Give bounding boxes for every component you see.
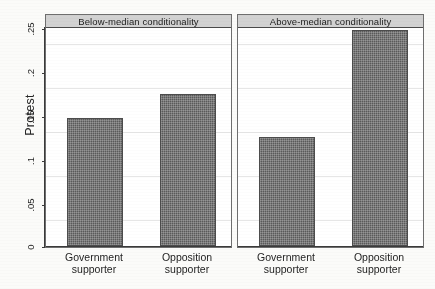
y-tick-2: .1	[20, 156, 38, 166]
y-tick-label-0: 0	[24, 240, 38, 254]
y-tick-3: .15	[20, 112, 38, 122]
gridline-0.25	[46, 44, 231, 45]
y-tick-label-3: .15	[24, 110, 38, 124]
panel-below-median: Below-median conditionality	[45, 14, 232, 248]
bar-below-median-government	[67, 118, 123, 246]
x-label-line2: supporter	[331, 263, 427, 275]
y-tick-label-4: .2	[24, 66, 38, 80]
x-label-above-median-opposition: Opposition supporter	[331, 251, 427, 275]
y-tick-1: .05	[20, 200, 38, 210]
bar-below-median-opposition	[160, 94, 216, 246]
panel-title-below-median: Below-median conditionality	[46, 15, 231, 28]
x-label-line2: supporter	[139, 263, 235, 275]
x-label-line2: supporter	[46, 263, 142, 275]
x-label-line2: supporter	[238, 263, 334, 275]
gridline-0.20	[46, 88, 231, 89]
x-axis-line-right	[238, 246, 423, 247]
plot-area-above-median	[238, 29, 423, 247]
x-axis-line-left	[46, 246, 231, 247]
x-label-line1: Opposition	[162, 251, 212, 263]
y-tick-4: .2	[20, 68, 38, 78]
panel-above-median: Above-median conditionality	[237, 14, 424, 248]
y-tick-0: 0	[20, 242, 38, 252]
x-label-below-median-opposition: Opposition supporter	[139, 251, 235, 275]
x-label-line1: Government	[65, 251, 123, 263]
bar-above-median-opposition	[352, 30, 408, 246]
y-tick-label-1: .05	[24, 198, 38, 212]
plot-area-below-median	[46, 29, 231, 247]
chart-root: Protest .25 .2 .15 .1 .05 0 Below-median…	[0, 0, 435, 289]
panel-title-above-median: Above-median conditionality	[238, 15, 423, 28]
bar-above-median-government	[259, 137, 315, 246]
y-tick-label-5: .25	[24, 22, 38, 36]
y-tick-label-2: .1	[24, 154, 38, 168]
y-tick-5: .25	[20, 24, 38, 34]
x-label-above-median-government: Government supporter	[238, 251, 334, 275]
x-label-line1: Government	[257, 251, 315, 263]
x-label-below-median-government: Government supporter	[46, 251, 142, 275]
x-label-line1: Opposition	[354, 251, 404, 263]
